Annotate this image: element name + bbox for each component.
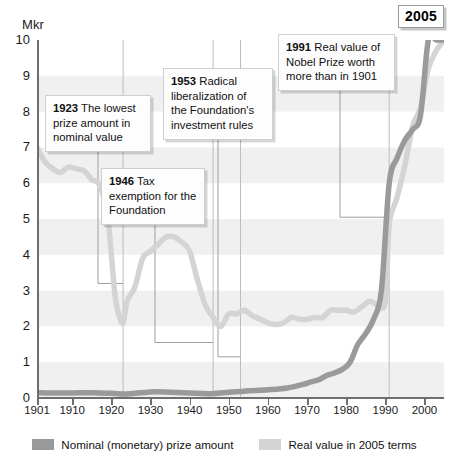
y-tick-1: 1 (4, 355, 30, 368)
y-tick-5: 5 (4, 212, 30, 225)
legend-label-real: Real value in 2005 terms (288, 438, 416, 451)
x-tick-mark-1920 (111, 398, 113, 405)
x-tick-mark-1980 (346, 398, 348, 405)
x-tick-1990: 1990 (363, 404, 407, 416)
annotation-callout-1946: 1946 Tax exemption for the Foundation (101, 168, 205, 225)
chart-legend: Nominal (monetary) prize amount Real val… (0, 438, 449, 451)
x-tick-mark-1990 (385, 398, 387, 405)
y-tick-4: 4 (4, 248, 30, 261)
annotation-year-1923: 1923 (53, 102, 78, 114)
x-tick-1940: 1940 (168, 404, 212, 416)
y-tick-2: 2 (4, 319, 30, 332)
annotation-callout-1923: 1923 The lowest prize amount in nominal … (45, 95, 151, 152)
legend-swatch-real (259, 439, 281, 450)
annotation-callout-1953: 1953 Radical liberalization of the Found… (163, 68, 273, 140)
annotation-callout-1991: 1991 Real value of Nobel Prize worth mor… (278, 34, 395, 91)
y-axis-line (37, 40, 39, 398)
x-tick-mark-1940 (190, 398, 192, 405)
x-tick-mark-1950 (229, 398, 231, 405)
end-year-badge: 2005 (398, 5, 444, 28)
annotation-year-1946: 1946 (109, 175, 134, 187)
x-tick-mark-1930 (150, 398, 152, 405)
x-tick-mark-2000 (424, 398, 426, 405)
y-tick-7: 7 (4, 140, 30, 153)
annotation-year-1991: 1991 (286, 41, 311, 53)
legend-item-nominal: Nominal (monetary) prize amount (32, 438, 233, 451)
x-tick-1970: 1970 (285, 404, 329, 416)
legend-swatch-nominal (32, 439, 54, 450)
y-tick-8: 8 (4, 105, 30, 118)
y-tick-6: 6 (4, 176, 30, 189)
y-tick-10: 10 (4, 33, 30, 46)
legend-item-real: Real value in 2005 terms (259, 438, 416, 451)
x-tick-mark-1901 (37, 398, 39, 405)
x-tick-mark-1910 (72, 398, 74, 405)
x-tick-1910: 1910 (50, 404, 94, 416)
y-tick-9: 9 (4, 69, 30, 82)
y-axis-tick-labels: 109876543210 (0, 0, 30, 468)
x-tick-1920: 1920 (89, 404, 133, 416)
x-tick-2000: 2000 (402, 404, 446, 416)
annotation-year-1953: 1953 (171, 75, 196, 87)
x-tick-1930: 1930 (128, 404, 172, 416)
x-tick-1950: 1950 (207, 404, 251, 416)
y-tick-3: 3 (4, 284, 30, 297)
x-axis-line (37, 397, 444, 399)
x-tick-1980: 1980 (324, 404, 368, 416)
legend-label-nominal: Nominal (monetary) prize amount (61, 438, 233, 451)
y-tick-0: 0 (4, 391, 30, 404)
x-tick-1960: 1960 (246, 404, 290, 416)
x-tick-mark-1960 (268, 398, 270, 405)
nobel-prize-value-chart: Mkr 109876543210 19011910192019301940195… (0, 0, 449, 468)
x-tick-mark-1970 (307, 398, 309, 405)
